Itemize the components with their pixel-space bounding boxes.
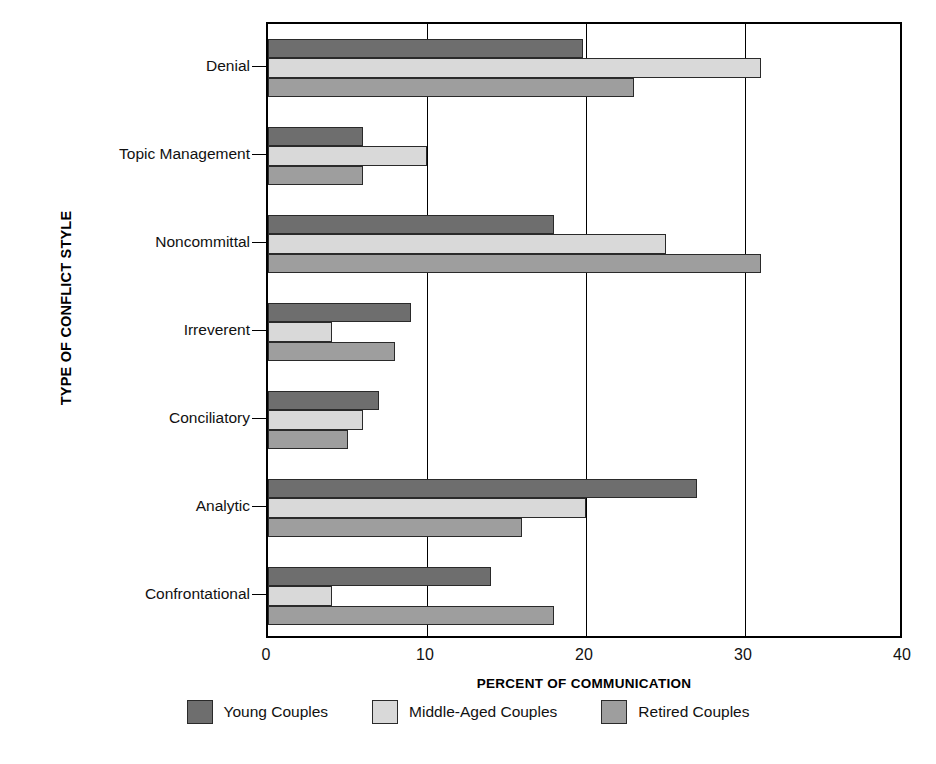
category-label-noncommittal: Noncommittal: [0, 233, 250, 251]
bar: [268, 606, 554, 626]
bar: [268, 498, 586, 518]
conflict-style-bar-chart: TYPE OF CONFLICT STYLE DenialTopic Manag…: [0, 0, 936, 764]
plot-area: [266, 22, 902, 638]
x-tick-label-20: 20: [575, 646, 593, 664]
bar: [268, 78, 634, 98]
legend-item: Retired Couples: [601, 700, 749, 724]
legend-swatch-icon: [187, 700, 213, 724]
category-tick: [252, 66, 266, 67]
category-label-irreverent: Irreverent: [0, 321, 250, 339]
bar: [268, 322, 332, 342]
bar: [268, 430, 348, 450]
category-label-conciliatory: Conciliatory: [0, 409, 250, 427]
category-label-confrontational: Confrontational: [0, 585, 250, 603]
bar: [268, 479, 697, 499]
bar: [268, 146, 427, 166]
x-tick-label-10: 10: [416, 646, 434, 664]
x-tick-label-0: 0: [262, 646, 271, 664]
legend-swatch-icon: [372, 700, 398, 724]
x-axis-tick-group: 010203040: [266, 640, 902, 670]
chart-legend: Young CouplesMiddle-Aged CouplesRetired …: [0, 700, 936, 724]
bar: [268, 39, 583, 59]
x-axis-title: PERCENT OF COMMUNICATION: [266, 676, 902, 691]
category-tick: [252, 154, 266, 155]
category-label-denial: Denial: [0, 57, 250, 75]
bar: [268, 58, 761, 78]
bar: [268, 303, 411, 323]
category-tick: [252, 330, 266, 331]
bar: [268, 166, 363, 186]
gridline-30: [745, 24, 746, 636]
legend-swatch-icon: [601, 700, 627, 724]
x-tick-label-40: 40: [893, 646, 911, 664]
bar: [268, 342, 395, 362]
bar: [268, 391, 379, 411]
legend-label: Middle-Aged Couples: [409, 703, 557, 721]
legend-item: Middle-Aged Couples: [372, 700, 557, 724]
gridline-20: [586, 24, 587, 636]
legend-item: Young Couples: [187, 700, 329, 724]
bar: [268, 127, 363, 147]
category-label-topic-management: Topic Management: [0, 145, 250, 163]
category-tick: [252, 594, 266, 595]
bar: [268, 586, 332, 606]
bar: [268, 567, 491, 587]
bar: [268, 215, 554, 235]
bar: [268, 254, 761, 274]
bar: [268, 518, 522, 538]
bar: [268, 234, 666, 254]
gridline-10: [427, 24, 428, 636]
legend-label: Retired Couples: [638, 703, 749, 721]
category-label-group: DenialTopic ManagementNoncommittalIrreve…: [0, 22, 250, 638]
category-tick: [252, 242, 266, 243]
bar: [268, 410, 363, 430]
category-tick: [252, 418, 266, 419]
x-tick-label-30: 30: [734, 646, 752, 664]
category-tick: [252, 506, 266, 507]
legend-label: Young Couples: [224, 703, 329, 721]
category-label-analytic: Analytic: [0, 497, 250, 515]
